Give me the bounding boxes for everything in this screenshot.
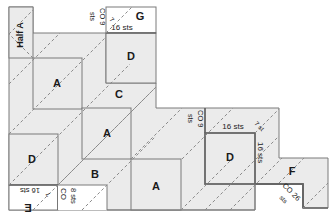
d-sts-label: sts — [187, 114, 194, 123]
g-co-label: CO 9 — [98, 8, 107, 26]
label-a2: A — [103, 127, 111, 139]
label-b: B — [91, 168, 99, 180]
d-height-label: 16 sts — [256, 142, 265, 163]
label-c: C — [115, 88, 123, 100]
e-eight-label: 8 sts — [69, 188, 78, 204]
g-width-label: 16 sts — [111, 23, 132, 32]
label-d-left: D — [28, 153, 36, 165]
e-co-label: CO — [59, 188, 68, 200]
e-width-label: 16 sts — [20, 186, 40, 195]
label-e: E — [24, 202, 31, 214]
label-f: F — [289, 165, 296, 177]
label-g: G — [136, 10, 145, 22]
label-half-a: Half A — [15, 22, 25, 48]
label-a1: A — [53, 77, 61, 89]
d-width-label: 16 sts — [222, 122, 243, 131]
label-d-right: D — [226, 151, 234, 163]
knitting-schematic: Half A A A A B C D D D E F G CO 9 sts 7 … — [0, 0, 336, 217]
label-a3: A — [152, 180, 160, 192]
label-d-top: D — [127, 50, 135, 62]
g-sts-label: sts — [89, 12, 96, 21]
d-co-label: CO 9 — [196, 110, 205, 128]
